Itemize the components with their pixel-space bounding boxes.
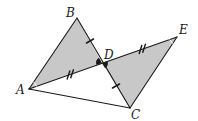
- shaded-triangle-abd: [29, 18, 102, 89]
- label-c: C: [131, 108, 140, 121]
- geometry-diagram: A B C D E: [0, 0, 198, 121]
- label-e: E: [178, 23, 188, 37]
- label-b: B: [65, 6, 75, 20]
- segment-ac: [29, 89, 130, 108]
- label-d: D: [103, 48, 114, 62]
- label-a: A: [15, 83, 25, 97]
